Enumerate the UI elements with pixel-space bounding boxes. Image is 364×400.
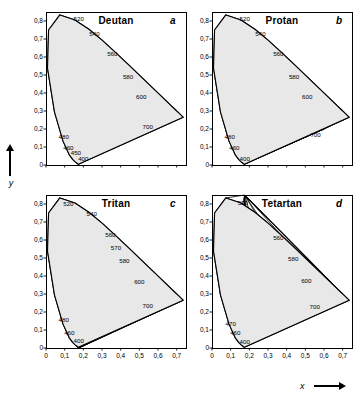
y-tick-label: 0,4 [189, 272, 209, 279]
wavelength-label: 700 [143, 123, 154, 130]
y-tick-label: 0,6 [23, 53, 43, 60]
panel-tetartan: 520560580600700470460400Tetartand0,80,70… [190, 191, 356, 374]
y-tick-label: 0,7 [189, 218, 209, 225]
wavelength-label: 700 [143, 302, 154, 309]
x-axis-arrow-icon [314, 385, 340, 387]
x-tick-label: 0,1 [58, 352, 72, 359]
panel-grid: 520540560580600700480460450400Deutana0,8… [24, 8, 356, 374]
wavelength-label: 580 [119, 257, 130, 264]
y-tick-label: 0 [23, 161, 43, 168]
x-tick-label: 0 [205, 352, 219, 359]
x-tick-label: 0,1 [224, 352, 238, 359]
panel-deutan: 520540560580600700480460450400Deutana0,8… [24, 8, 190, 191]
x-tick-label: 0,2 [76, 352, 90, 359]
chromaticity-diagram-tritan: 520540560570580600700480460400 [24, 191, 190, 374]
y-tick-label: 0,1 [23, 143, 43, 150]
y-tick-label: 0,3 [189, 107, 209, 114]
y-tick-label: 0 [189, 344, 209, 351]
y-tick-label: 0,6 [23, 236, 43, 243]
y-tick-label: 0 [23, 344, 43, 351]
panel-letter: d [336, 198, 342, 209]
y-tick-label: 0,7 [23, 218, 43, 225]
y-tick-label: 0,8 [189, 200, 209, 207]
panel-title: Tritan [46, 198, 186, 209]
wavelength-label: 600 [136, 93, 147, 100]
y-tick-label: 0,2 [23, 125, 43, 132]
y-tick-label: 0,4 [189, 89, 209, 96]
y-tick-label: 0,3 [23, 290, 43, 297]
y-tick-label: 0,4 [23, 89, 43, 96]
chromaticity-diagram-protan: 520540560580600700480460400 [190, 8, 356, 191]
y-tick-label: 0,2 [23, 308, 43, 315]
wavelength-label: 700 [310, 131, 321, 138]
y-tick-label: 0,4 [23, 272, 43, 279]
y-tick-label: 0,3 [189, 290, 209, 297]
panel-letter: c [170, 198, 176, 209]
y-axis-arrow-icon [9, 150, 11, 176]
panel-protan: 520540560580600700480460400Protanb0,80,7… [190, 8, 356, 191]
y-tick-label: 0,1 [23, 326, 43, 333]
panel-title: Tetartan [212, 198, 352, 209]
y-tick-label: 0,5 [23, 254, 43, 261]
chromaticity-diagram-tetartan: 520560580600700470460400 [190, 191, 356, 374]
y-tick-label: 0,5 [23, 71, 43, 78]
wavelength-label: 600 [301, 277, 312, 284]
wavelength-label: 580 [289, 73, 300, 80]
y-tick-label: 0,8 [189, 17, 209, 24]
x-tick-label: 0,6 [151, 352, 165, 359]
wavelength-label: 540 [89, 30, 100, 37]
wavelength-label: 600 [134, 278, 145, 285]
wavelength-label: 580 [288, 255, 299, 262]
panel-letter: b [336, 15, 342, 26]
wavelength-label: 480 [59, 133, 70, 140]
wavelength-label: 400 [78, 155, 89, 162]
x-axis-label: x [300, 381, 305, 391]
x-tick-label: 0,4 [114, 352, 128, 359]
wavelength-label: 560 [273, 50, 284, 57]
wavelength-label: 600 [302, 93, 313, 100]
wavelength-label: 560 [105, 231, 116, 238]
y-tick-label: 0,2 [189, 308, 209, 315]
wavelength-label: 480 [59, 316, 70, 323]
x-tick-label: 0,4 [280, 352, 294, 359]
x-tick-label: 0,2 [242, 352, 256, 359]
x-tick-label: 0,5 [132, 352, 146, 359]
x-tick-label: 0,5 [298, 352, 312, 359]
y-tick-label: 0,6 [189, 236, 209, 243]
wavelength-label: 560 [107, 50, 118, 57]
figure-chromaticity-panels: y x 520540560580600700480460450400Deutan… [0, 0, 364, 400]
wavelength-label: 570 [111, 244, 122, 251]
x-tick-label: 0,3 [95, 352, 109, 359]
wavelength-label: 400 [240, 338, 251, 345]
wavelength-label: 400 [74, 337, 85, 344]
y-tick-label: 0,3 [23, 107, 43, 114]
panel-title: Deutan [46, 15, 186, 26]
panel-tritan: 520540560570580600700480460400Tritanc0,8… [24, 191, 190, 374]
x-tick-label: 0,3 [261, 352, 275, 359]
y-tick-label: 0,1 [189, 326, 209, 333]
y-tick-label: 0,8 [23, 200, 43, 207]
chromaticity-diagram-deutan: 520540560580600700480460450400 [24, 8, 190, 191]
y-axis-label: y [2, 178, 20, 188]
wavelength-label: 470 [226, 320, 237, 327]
wavelength-label: 540 [255, 30, 266, 37]
y-tick-label: 0,6 [189, 53, 209, 60]
panel-letter: a [170, 15, 176, 26]
y-tick-label: 0,7 [189, 35, 209, 42]
y-tick-label: 0,5 [189, 71, 209, 78]
wavelength-label: 580 [123, 73, 134, 80]
y-tick-label: 0,1 [189, 143, 209, 150]
wavelength-label: 460 [230, 329, 241, 336]
wavelength-label: 460 [229, 144, 240, 151]
wavelength-label: 460 [64, 329, 75, 336]
y-tick-label: 0 [189, 161, 209, 168]
wavelength-label: 700 [310, 303, 321, 310]
wavelength-label: 560 [273, 234, 284, 241]
y-tick-label: 0,5 [189, 254, 209, 261]
wavelength-label: 540 [87, 210, 98, 217]
wavelength-label: 480 [225, 133, 236, 140]
x-tick-label: 0 [39, 352, 53, 359]
x-tick-label: 0,7 [170, 352, 184, 359]
y-tick-label: 0,7 [23, 35, 43, 42]
x-tick-label: 0,7 [336, 352, 350, 359]
